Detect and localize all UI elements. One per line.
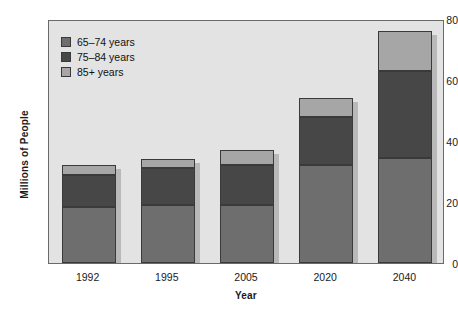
bar-shadow xyxy=(116,169,121,263)
chart-legend: 65–74 years75–84 years85+ years xyxy=(61,36,135,78)
bar-segment[interactable] xyxy=(299,117,353,166)
legend-label: 75–84 years xyxy=(77,52,135,63)
bar-stack-2040[interactable] xyxy=(378,31,432,263)
bar-shadow xyxy=(195,163,200,263)
bar-segment[interactable] xyxy=(141,159,195,168)
bar-shadow xyxy=(353,102,358,263)
bar-segment[interactable] xyxy=(299,98,353,116)
legend-item[interactable]: 85+ years xyxy=(61,66,135,78)
x-tick-label: 2020 xyxy=(295,272,355,283)
bar-shadow xyxy=(432,35,437,263)
bar-shadow xyxy=(274,154,279,263)
legend-swatch-icon xyxy=(61,52,71,62)
bar-segment[interactable] xyxy=(378,158,432,263)
bar-segment[interactable] xyxy=(220,205,274,263)
legend-label: 65–74 years xyxy=(77,37,135,48)
bar-segment[interactable] xyxy=(378,31,432,71)
bar-segment[interactable] xyxy=(141,168,195,205)
bar-stack-2020[interactable] xyxy=(299,98,353,263)
legend-item[interactable]: 75–84 years xyxy=(61,51,135,63)
bar-segment[interactable] xyxy=(220,165,274,205)
legend-item[interactable]: 65–74 years xyxy=(61,36,135,48)
bar-segment[interactable] xyxy=(62,207,116,263)
x-tick-label: 2040 xyxy=(374,272,434,283)
y-axis-title: Millions of People xyxy=(12,0,36,309)
bar-stack-1992[interactable] xyxy=(62,165,116,263)
chart-figure: Millions of People 020406080 65–74 years… xyxy=(0,0,458,309)
legend-swatch-icon xyxy=(61,67,71,77)
bar-segment[interactable] xyxy=(299,165,353,263)
x-tick-label: 2005 xyxy=(216,272,276,283)
x-tick-label: 1995 xyxy=(137,272,197,283)
x-axis-title: Year xyxy=(48,290,444,301)
bar-segment[interactable] xyxy=(220,150,274,165)
bar-segment[interactable] xyxy=(62,175,116,207)
bar-segment[interactable] xyxy=(62,165,116,174)
legend-swatch-icon xyxy=(61,37,71,47)
x-tick-label: 1992 xyxy=(58,272,118,283)
legend-label: 85+ years xyxy=(77,67,123,78)
bar-stack-1995[interactable] xyxy=(141,159,195,263)
bar-segment[interactable] xyxy=(141,205,195,263)
bar-segment[interactable] xyxy=(378,71,432,158)
bar-stack-2005[interactable] xyxy=(220,150,274,263)
